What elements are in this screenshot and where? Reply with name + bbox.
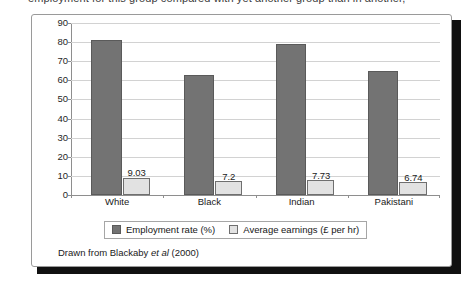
page-caption-strip: employment for this group compared with … [0,0,465,9]
legend-label: Average earnings (£ per hr) [243,225,359,235]
bar-employment-rate [368,71,398,195]
y-tick-label: 90 [57,18,68,28]
bar-average-earnings: 7.2 [215,181,242,195]
y-tick-label: 40 [57,114,68,124]
bar-group: 6.74 [348,23,440,195]
bar-average-earnings: 9.03 [123,178,150,195]
bar-employment-rate [91,40,121,195]
x-axis-label-indian: Indian [256,197,348,207]
bar-value-label: 7.2 [222,172,235,182]
x-axis-label-white: White [71,197,163,207]
figure-frame: 0102030405060708090 9.037.27.736.74 Whit… [31,14,452,267]
bar-value-label: 6.74 [404,173,423,183]
source-note: Drawn from Blackaby et al (2000) [58,247,199,258]
legend-item: Average earnings (£ per hr) [229,225,359,235]
legend-swatch-rate [112,225,121,234]
source-note-italic: et al [151,247,169,258]
bar-employment-rate [276,44,306,195]
bar-average-earnings: 6.74 [399,182,426,195]
bar-group: 9.03 [71,23,163,195]
source-note-prefix: Drawn from Blackaby [58,247,148,258]
bar-group: 7.73 [256,23,348,195]
y-axis-tick-labels: 0102030405060708090 [42,23,68,195]
y-tick-label: 50 [57,95,68,105]
chart-plot-area: 0102030405060708090 9.037.27.736.74 Whit… [42,23,440,208]
bar-value-label: 9.03 [127,168,145,178]
y-tick-label: 60 [57,76,68,86]
chart-bars-layer: 9.037.27.736.74 [71,23,440,195]
y-tick-label: 10 [57,171,68,181]
y-tick-label: 30 [57,133,68,143]
source-note-suffix: (2000) [172,247,199,258]
y-tick-label: 20 [57,152,68,162]
legend-label: Employment rate (%) [126,225,215,235]
y-tick-label: 70 [57,56,68,66]
legend-swatch-earn [229,225,238,234]
bar-value-label: 7.73 [312,171,331,181]
legend-item: Employment rate (%) [112,225,215,235]
bar-group: 7.2 [163,23,255,195]
x-axis-label-pakistani: Pakistani [348,197,440,207]
x-axis-category-labels: WhiteBlackIndianPakistani [71,197,440,211]
x-axis-label-black: Black [163,197,255,207]
bar-employment-rate [184,75,214,195]
bar-average-earnings: 7.73 [307,180,334,195]
caption-text: employment for this group compared with … [28,0,405,4]
y-tick-label: 80 [57,37,68,47]
chart-legend: Employment rate (%)Average earnings (£ p… [104,221,367,239]
